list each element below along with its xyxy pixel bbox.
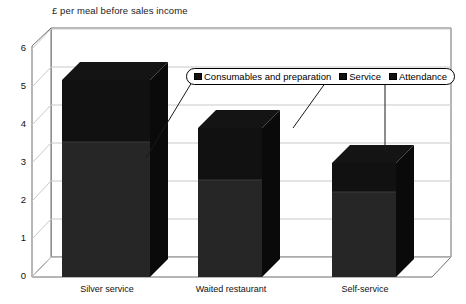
- bar-side-face: [396, 145, 414, 277]
- bar-segment-consumables: [332, 192, 396, 277]
- legend-swatch-icon: [339, 73, 347, 80]
- y-tick-4: 4: [10, 118, 26, 129]
- leader-service: [293, 82, 326, 128]
- chart-root: £ per meal before sales income: [0, 0, 466, 304]
- legend-label-service: Service: [349, 71, 381, 82]
- bar-side-face: [262, 110, 280, 277]
- legend-swatch-icon: [194, 73, 202, 80]
- bar-segment-service: [198, 128, 262, 180]
- y-tick-5: 5: [10, 80, 26, 91]
- bar-side-face: [150, 62, 168, 277]
- x-label-silver-service: Silver service: [61, 284, 153, 294]
- legend-label-consumables: Consumables and preparation: [204, 71, 331, 82]
- legend-item-attendance[interactable]: Attendance: [389, 71, 447, 82]
- bar-top-face: [62, 62, 168, 80]
- legend-label-attendance: Attendance: [399, 71, 447, 82]
- bar-segment-consumables: [198, 180, 262, 277]
- y-tick-6: 6: [10, 42, 26, 53]
- legend-swatch-icon: [389, 73, 397, 80]
- chart-bars: [0, 0, 466, 304]
- y-tick-3: 3: [10, 156, 26, 167]
- y-tick-0: 0: [10, 270, 26, 281]
- bar-segment-consumables: [62, 142, 150, 277]
- y-tick-2: 2: [10, 194, 26, 205]
- y-tick-1: 1: [10, 232, 26, 243]
- bar-silver-service: [62, 62, 168, 277]
- bar-waited-restaurant: [198, 110, 280, 277]
- x-label-self-service: Self-service: [315, 284, 415, 294]
- bar-segment-service: [332, 163, 396, 192]
- legend-item-consumables[interactable]: Consumables and preparation: [194, 71, 331, 82]
- bar-segment-service: [62, 80, 150, 142]
- legend-item-service[interactable]: Service: [339, 71, 381, 82]
- chart-legend: Consumables and preparation Service Atte…: [186, 68, 455, 85]
- bar-self-service: [332, 145, 414, 277]
- x-label-waited-restaurant: Waited restaurant: [175, 284, 287, 294]
